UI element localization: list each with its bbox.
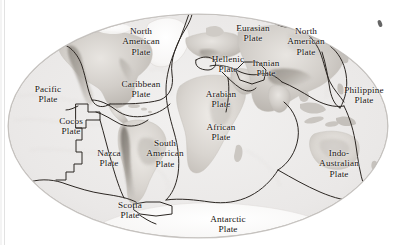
plate-label-arabian[interactable]: Arabian Plate bbox=[188, 89, 254, 110]
map-figure: Pacific Plate North American Plate Carib… bbox=[0, 0, 396, 245]
boundary-antarctic-east bbox=[360, 200, 382, 214]
plate-label-north-american-east[interactable]: North American Plate bbox=[275, 26, 337, 57]
plate-label-iranian[interactable]: Iranian Plate bbox=[239, 58, 293, 79]
plate-label-cocos[interactable]: Cocos Plate bbox=[40, 116, 102, 137]
plate-label-indo-australian[interactable]: Indo- Australian Plate bbox=[295, 148, 383, 179]
plate-label-african[interactable]: African Plate bbox=[188, 122, 254, 143]
plate-label-scotia[interactable]: Scotia Plate bbox=[100, 200, 160, 221]
plate-label-pacific[interactable]: Pacific Plate bbox=[12, 84, 84, 105]
plate-label-antarctic[interactable]: Antarctic Plate bbox=[192, 214, 264, 235]
plate-label-north-american-west[interactable]: North American Plate bbox=[102, 26, 180, 57]
plate-label-philippine[interactable]: Philippine Plate bbox=[335, 85, 393, 106]
plate-label-caribbean[interactable]: Caribbean Plate bbox=[99, 79, 183, 100]
